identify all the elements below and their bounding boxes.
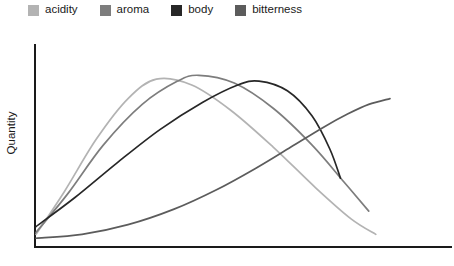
axis-lines	[34, 44, 452, 248]
plot-area	[0, 0, 454, 266]
chart-svg	[0, 0, 454, 266]
series-line-aroma	[36, 75, 369, 232]
series-line-acidity	[36, 78, 376, 234]
series-line-body	[36, 81, 340, 227]
chart-container: acidity aroma body bitterness Quantity	[0, 0, 454, 266]
series-group	[36, 75, 390, 238]
